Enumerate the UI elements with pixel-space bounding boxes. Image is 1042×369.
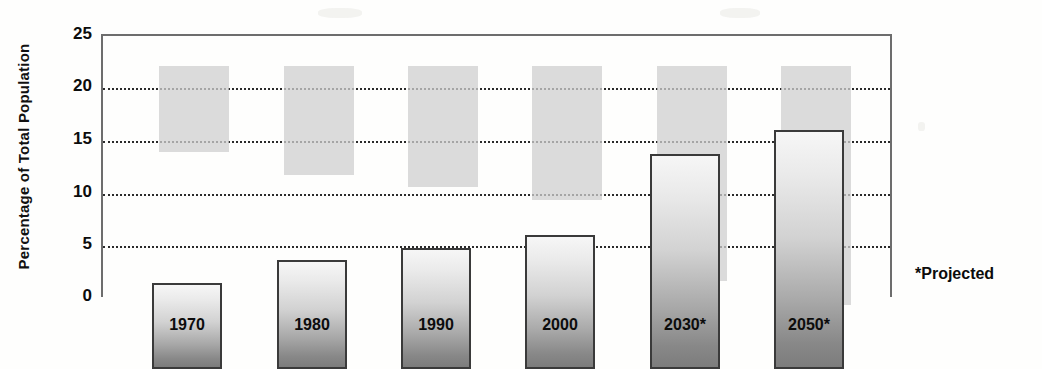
bar-chart: Percentage of Total Population 25 20 15 …	[0, 0, 1042, 369]
projected-footnote: *Projected	[915, 265, 994, 283]
bar-1980[interactable]	[277, 260, 347, 369]
bar-shadow	[532, 66, 602, 200]
bar-shadow	[408, 66, 478, 187]
x-tick-label-2000: 2000	[505, 316, 615, 334]
x-tick-label-1990: 1990	[381, 316, 491, 334]
bar-1990[interactable]	[401, 248, 471, 369]
bar-shadow	[284, 66, 354, 175]
bar-2000[interactable]	[525, 235, 595, 369]
x-tick-label-1980: 1980	[257, 316, 367, 334]
x-tick-label-1970: 1970	[132, 316, 242, 334]
x-tick-label-2030: 2030*	[630, 316, 740, 334]
bar-shadow	[159, 66, 229, 152]
bar-2030[interactable]	[650, 154, 720, 369]
x-tick-label-2050: 2050*	[754, 316, 864, 334]
bars-layer	[0, 0, 1042, 369]
